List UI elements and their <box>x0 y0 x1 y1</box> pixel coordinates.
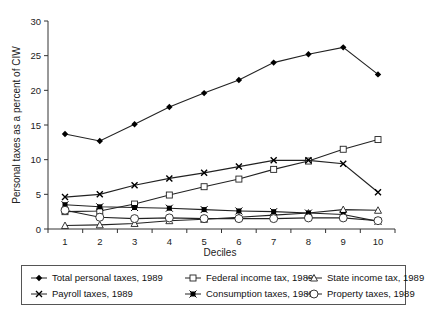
y-tick-label: 30 <box>30 16 41 27</box>
data-point <box>201 184 207 190</box>
legend-label: Federal income tax, 1989 <box>206 272 313 283</box>
y-tick-label: 15 <box>30 120 41 131</box>
x-tick-label: 10 <box>373 236 384 247</box>
data-point <box>235 215 243 223</box>
data-point <box>97 138 103 144</box>
data-point <box>36 274 42 280</box>
data-point <box>375 189 381 195</box>
data-point <box>235 207 242 214</box>
series-federal-income-tax-1989 <box>62 137 381 215</box>
data-point <box>96 213 104 221</box>
x-tick-label: 6 <box>236 236 241 247</box>
line-chart: 05101520253012345678910 Personal taxes a… <box>0 0 425 262</box>
triangle-open-marker-icon <box>305 273 323 283</box>
data-point <box>190 290 197 297</box>
x-tick-label: 4 <box>167 236 172 247</box>
y-tick-label: 0 <box>36 224 41 235</box>
x-marker-icon <box>30 289 48 299</box>
series-total-personal-taxes-1989 <box>62 44 381 144</box>
legend-item: Property taxes, 1989 <box>305 288 415 299</box>
legend-item: Payroll taxes, 1989 <box>30 288 133 299</box>
legend-item: Total personal taxes, 1989 <box>30 272 163 283</box>
data-point <box>166 192 172 198</box>
data-point <box>96 203 103 210</box>
data-point <box>62 131 68 137</box>
data-point <box>375 137 381 143</box>
data-point <box>131 121 137 127</box>
y-tick-label: 20 <box>30 85 41 96</box>
y-tick-label: 5 <box>36 189 41 200</box>
x-tick-label: 2 <box>97 236 102 247</box>
data-point <box>236 176 242 182</box>
legend-label: Consumption taxes, 1989 <box>206 288 314 299</box>
diamond-filled-marker-icon <box>30 273 48 283</box>
legend-label: State income tax, 1989 <box>327 272 424 283</box>
data-point <box>201 90 207 96</box>
data-point <box>270 59 276 65</box>
data-point <box>270 208 277 215</box>
legend-item: Federal income tax, 1989 <box>184 272 313 283</box>
x-axis-label: Deciles <box>204 247 237 258</box>
legend-label: Total personal taxes, 1989 <box>52 272 163 283</box>
x-tick-label: 9 <box>341 236 346 247</box>
data-point <box>166 205 173 212</box>
data-point <box>236 77 242 83</box>
data-point <box>304 214 312 222</box>
legend-item: State income tax, 1989 <box>305 272 424 283</box>
y-tick-label: 10 <box>30 154 41 165</box>
circle-open-marker-icon <box>305 289 323 299</box>
star-filled-marker-icon <box>184 289 202 299</box>
data-point <box>310 290 318 298</box>
x-tick-label: 5 <box>201 236 206 247</box>
data-point <box>165 214 173 222</box>
legend: Total personal taxes, 1989Federal income… <box>21 265 406 305</box>
data-point <box>270 215 278 223</box>
legend-label: Payroll taxes, 1989 <box>52 288 133 299</box>
data-point <box>131 215 139 223</box>
data-point <box>339 214 347 222</box>
data-point <box>340 146 346 152</box>
y-tick-label: 25 <box>30 50 41 61</box>
data-point <box>374 217 382 225</box>
data-point <box>201 206 208 213</box>
x-tick-label: 8 <box>306 236 311 247</box>
data-point <box>190 275 196 281</box>
square-open-marker-icon <box>184 273 202 283</box>
data-point <box>166 104 172 110</box>
y-axis-label: Personal taxes as a percent of CIW <box>11 46 22 204</box>
legend-item: Consumption taxes, 1989 <box>184 288 314 299</box>
data-point <box>200 215 208 223</box>
data-point <box>61 206 69 214</box>
x-tick-label: 3 <box>132 236 137 247</box>
x-tick-label: 7 <box>271 236 276 247</box>
x-tick-label: 1 <box>62 236 67 247</box>
series-consumption-taxes-1989 <box>62 201 382 225</box>
series-payroll-taxes-1989 <box>62 157 381 200</box>
series-layer <box>61 44 382 228</box>
data-point <box>131 204 138 211</box>
data-point <box>305 51 311 57</box>
legend-label: Property taxes, 1989 <box>327 288 415 299</box>
data-point <box>271 166 277 172</box>
